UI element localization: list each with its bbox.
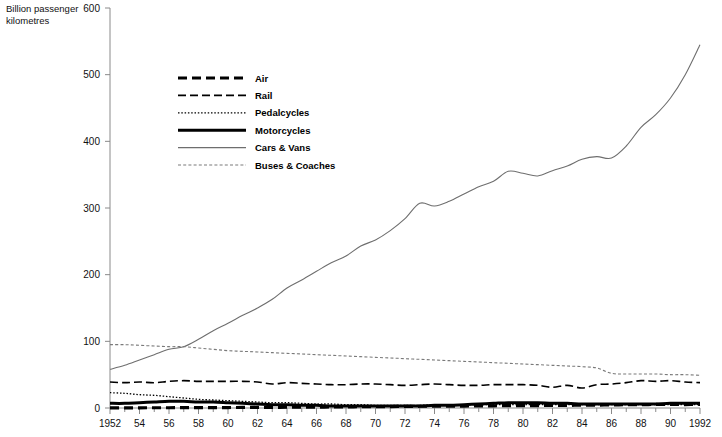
y-tick-label: 0 <box>94 403 100 414</box>
chart-canvas: Billion passengerkilometres0100200300400… <box>0 0 722 437</box>
x-tick-label: 58 <box>193 418 205 429</box>
y-tick-label: 600 <box>83 3 100 14</box>
x-tick-label: 1952 <box>99 418 122 429</box>
x-tick-label: 86 <box>606 418 618 429</box>
y-axis-label-line1: Billion passenger <box>6 3 78 14</box>
y-tick-label: 200 <box>83 269 100 280</box>
y-tick-label: 400 <box>83 136 100 147</box>
y-tick-label: 500 <box>83 69 100 80</box>
x-tick-label: 80 <box>517 418 529 429</box>
x-tick-label: 88 <box>635 418 647 429</box>
x-tick-label: 64 <box>281 418 293 429</box>
x-tick-label: 82 <box>547 418 559 429</box>
x-tick-label: 84 <box>576 418 588 429</box>
x-tick-label: 1992 <box>689 418 712 429</box>
x-tick-label: 60 <box>222 418 234 429</box>
x-tick-label: 56 <box>163 418 175 429</box>
x-tick-label: 66 <box>311 418 323 429</box>
x-tick-label: 78 <box>488 418 500 429</box>
series-line-cars-vans <box>110 45 700 370</box>
series-line-rail <box>110 381 700 388</box>
legend-label-air: Air <box>255 73 269 84</box>
legend-label-pedalcycles: Pedalcycles <box>255 107 309 118</box>
passenger-transport-line-chart: Billion passengerkilometres0100200300400… <box>0 0 722 437</box>
legend-label-rail: Rail <box>255 90 272 101</box>
series-line-buses-coaches <box>110 345 700 376</box>
legend-label-cars-vans: Cars & Vans <box>255 142 310 153</box>
y-tick-label: 300 <box>83 203 100 214</box>
x-tick-label: 70 <box>370 418 382 429</box>
x-tick-label: 68 <box>340 418 352 429</box>
x-tick-label: 90 <box>665 418 677 429</box>
x-tick-label: 74 <box>429 418 441 429</box>
y-tick-label: 100 <box>83 336 100 347</box>
x-tick-label: 76 <box>458 418 470 429</box>
legend-label-motorcycles: Motorcycles <box>255 125 310 136</box>
x-tick-label: 72 <box>399 418 411 429</box>
x-tick-label: 62 <box>252 418 264 429</box>
legend-label-buses-coaches: Buses & Coaches <box>255 160 335 171</box>
x-tick-label: 54 <box>134 418 146 429</box>
y-axis-label-line2: kilometres <box>6 15 50 26</box>
